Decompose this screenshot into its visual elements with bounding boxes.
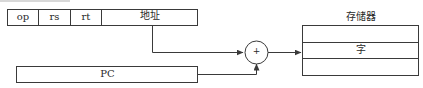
field-rs-label: rs bbox=[39, 12, 70, 22]
memory-title: 存储器 bbox=[302, 12, 419, 22]
pc-label: PC bbox=[17, 69, 198, 79]
field-rt-label: rt bbox=[71, 12, 101, 22]
address-to-adder-line bbox=[153, 26, 244, 53]
memory-cell-word: 字 bbox=[303, 45, 419, 55]
field-address-label: 地址 bbox=[102, 11, 198, 21]
pc-to-adder-line bbox=[198, 64, 257, 75]
base-addressing-diagram: op rs rt 地址 PC + 存储器 字 bbox=[0, 0, 423, 88]
field-op-label: op bbox=[8, 12, 38, 22]
adder-plus-symbol: + bbox=[245, 47, 268, 56]
